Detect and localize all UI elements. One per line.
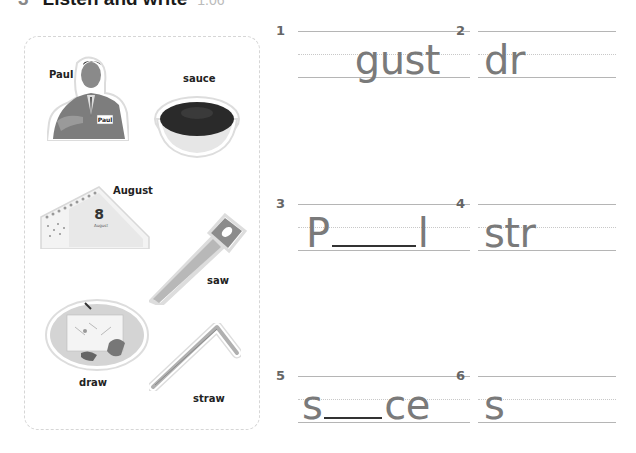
exercise-2-prefix: dr (484, 37, 525, 83)
exercise-3-suffix: l (418, 210, 429, 256)
exercise-5-blank[interactable] (324, 417, 382, 419)
drawing-photo (45, 299, 149, 371)
svg-text:August: August (94, 223, 108, 228)
exercise-2-answer-field[interactable]: dr (478, 40, 616, 80)
calendar-photo: 8 August (39, 183, 151, 249)
svg-text:8: 8 (94, 206, 104, 222)
exercise-3-prefix: P (306, 210, 330, 256)
exercise-4-prefix: str (484, 210, 535, 256)
straw-icon (149, 323, 241, 391)
writing-line-top (298, 204, 470, 205)
exercise-number: 3 (18, 0, 29, 9)
straw-photo (149, 323, 241, 391)
exercise-1-suffix: gust (355, 37, 440, 83)
exercise-3-answer-field[interactable]: Pl (298, 213, 470, 253)
exercise-4-answer-field[interactable]: str (478, 213, 616, 253)
child-drawing-icon (45, 299, 149, 371)
exercise-5-number: 5 (276, 368, 285, 383)
exercise-3: 3 Pl (298, 204, 470, 254)
picture-panel: Paul Paul sauce August (24, 36, 260, 430)
man-pointing-icon: Paul (47, 53, 129, 141)
exercise-5-answer-field[interactable]: sce (298, 385, 470, 425)
writing-line-top (298, 31, 470, 32)
exercise-5: 5 sce (298, 376, 470, 426)
exercise-1-answer-field[interactable]: gust (298, 40, 470, 80)
calendar-icon: 8 August (39, 183, 151, 249)
writing-line-top (298, 376, 470, 377)
exercise-3-number: 3 (276, 196, 285, 211)
exercise-title: Listen and write (43, 0, 188, 9)
picture-label-sauce: sauce (183, 73, 216, 84)
picture-label-draw: draw (79, 377, 107, 388)
exercise-heading: 3Listen and write1.06 (18, 0, 224, 8)
exercise-4: 4 str (478, 204, 616, 254)
exercise-6-answer-field[interactable]: s (478, 385, 616, 425)
exercise-6: 6 s (478, 376, 616, 426)
exercise-1: 1 gust (298, 31, 470, 81)
exercise-6-number: 6 (456, 368, 465, 383)
exercise-3-blank[interactable] (332, 245, 416, 247)
saw-photo (149, 213, 247, 305)
svg-text:Paul: Paul (98, 116, 113, 123)
exercise-4-number: 4 (456, 196, 465, 211)
writing-line-top (478, 376, 616, 377)
exercise-1-number: 1 (276, 23, 285, 38)
exercise-2-number: 2 (456, 23, 465, 38)
exercise-6-prefix: s (484, 382, 504, 428)
bowl-icon (153, 93, 241, 161)
writing-line-top (478, 204, 616, 205)
writing-line-top (478, 31, 616, 32)
exercise-5-prefix: s (302, 382, 322, 428)
picture-label-straw: straw (193, 393, 225, 404)
man-pointing-photo: Paul (47, 53, 129, 141)
saw-icon (149, 213, 247, 305)
audio-track-number: 1.06 (197, 0, 224, 8)
exercise-5-suffix: ce (384, 382, 430, 428)
sauce-bowl-photo (153, 93, 241, 161)
exercise-2: 2 dr (478, 31, 616, 81)
